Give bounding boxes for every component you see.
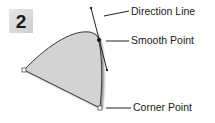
- direction-handle-top: [90, 7, 92, 9]
- direction-handle-bottom: [106, 69, 108, 71]
- corner-point-left-anchor: [22, 68, 26, 72]
- smooth-point-label: Smooth Point: [131, 35, 194, 46]
- corner-point-label: Corner Point: [133, 102, 192, 113]
- leader-direction-line: [104, 11, 129, 16]
- curved-shape: [24, 32, 102, 108]
- smooth-point-anchor: [97, 38, 101, 42]
- direction-line-label: Direction Line: [131, 6, 195, 17]
- corner-point-bottom-anchor: [98, 106, 102, 110]
